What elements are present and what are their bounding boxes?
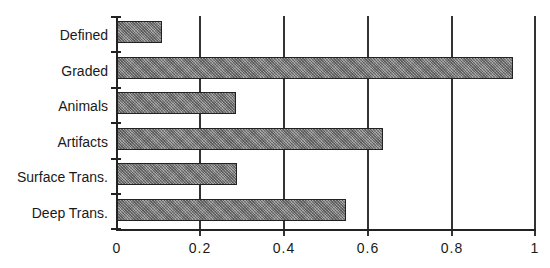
x-tick-label: 0.2 bbox=[189, 240, 211, 256]
x-tick-label: 0.8 bbox=[441, 240, 463, 256]
bar-graded bbox=[117, 57, 513, 79]
gridline-0.8 bbox=[451, 16, 453, 236]
x-tick-label: 0.6 bbox=[357, 240, 379, 256]
bar-deep-trans bbox=[117, 199, 346, 221]
category-label: Deep Trans. bbox=[32, 205, 108, 221]
y-tick bbox=[111, 51, 121, 53]
x-tick-label: 1 bbox=[531, 240, 540, 256]
y-tick bbox=[111, 158, 121, 160]
plot-area bbox=[116, 16, 535, 230]
bar-animals bbox=[117, 92, 236, 114]
gridline-0.6 bbox=[367, 16, 369, 236]
y-tick bbox=[111, 122, 121, 124]
gridline-1 bbox=[534, 16, 536, 236]
category-label: Animals bbox=[58, 98, 108, 114]
category-label: Artifacts bbox=[57, 134, 108, 150]
y-tick bbox=[111, 193, 121, 195]
category-label: Surface Trans. bbox=[17, 169, 108, 185]
bar-surface-trans bbox=[117, 163, 237, 185]
bar-defined bbox=[117, 21, 162, 43]
x-tick-label: 0 bbox=[113, 240, 122, 256]
horizontal-bar-chart: Defined Graded Animals Artifacts Surface… bbox=[0, 0, 550, 268]
category-label: Graded bbox=[61, 63, 108, 79]
category-label: Defined bbox=[60, 27, 108, 43]
y-tick bbox=[111, 16, 121, 18]
bar-artifacts bbox=[117, 128, 383, 150]
y-tick bbox=[111, 87, 121, 89]
x-axis bbox=[116, 229, 536, 231]
x-tick-label: 0.4 bbox=[273, 240, 295, 256]
